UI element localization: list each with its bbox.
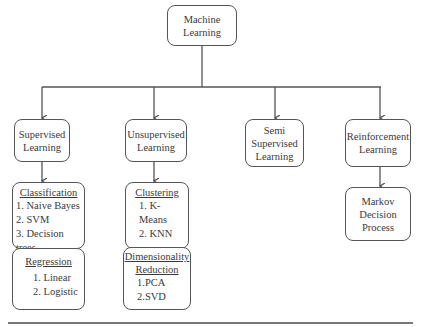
node-supervised-learning: Supervised Learning (14, 119, 70, 162)
node-markov-decision-process: Markov Decision Process (345, 187, 411, 241)
node-heading: Dimensionality (125, 250, 190, 263)
node-semi-supervised-learning: Semi Supervised Learning (245, 119, 304, 167)
list-item: 2. SVM (16, 213, 84, 227)
list-item: 1. Linear (33, 271, 84, 285)
item-list: 1.PCA 2.SVD (124, 276, 190, 304)
node-label: Machine (184, 13, 221, 26)
node-label: Markov (361, 195, 394, 208)
node-regression: Regression 1. Linear 2. Logistic (12, 248, 85, 310)
node-heading: Classification (20, 186, 78, 199)
list-item: 2. KNN (139, 227, 188, 241)
list-item: 1.PCA (137, 276, 190, 290)
node-label: Unsupervised (127, 128, 185, 141)
node-label: Supervised (19, 128, 66, 141)
node-heading: Clustering (135, 186, 179, 199)
node-machine-learning: Machine Learning (167, 5, 237, 46)
node-dimensionality-reduction: Dimensionality Reduction 1.PCA 2.SVD (123, 247, 191, 310)
node-label: Learning (359, 143, 397, 156)
list-item: 1. K-Means (139, 199, 188, 227)
item-list: 1. Linear 2. Logistic (13, 268, 84, 299)
node-reinforcement-learning: Reinforcement Learning (345, 119, 411, 167)
node-heading: Reduction (135, 263, 178, 276)
node-label: Supervised (251, 137, 298, 150)
list-item: 1. Naive Bayes (16, 199, 84, 213)
node-unsupervised-learning: Unsupervised Learning (125, 119, 187, 162)
node-label: Reinforcement (347, 130, 409, 143)
node-label: Process (362, 221, 394, 234)
node-clustering: Clustering 1. K-Means 2. KNN (125, 182, 189, 249)
item-list: 1. Naive Bayes 2. SVM 3. Decision trees (13, 199, 84, 255)
list-item: 2.SVD (137, 290, 190, 304)
bottom-divider (8, 322, 413, 324)
node-label: Learning (256, 150, 294, 163)
node-label: Learning (183, 26, 221, 39)
node-label: Decision (359, 208, 396, 221)
node-label: Semi (264, 124, 286, 137)
node-heading: Regression (25, 255, 72, 268)
node-label: Learning (137, 141, 175, 154)
node-classification: Classification 1. Naive Bayes 2. SVM 3. … (12, 182, 85, 249)
item-list: 1. K-Means 2. KNN (126, 199, 188, 241)
node-label: Learning (23, 141, 61, 154)
list-item: 2. Logistic (33, 285, 84, 299)
